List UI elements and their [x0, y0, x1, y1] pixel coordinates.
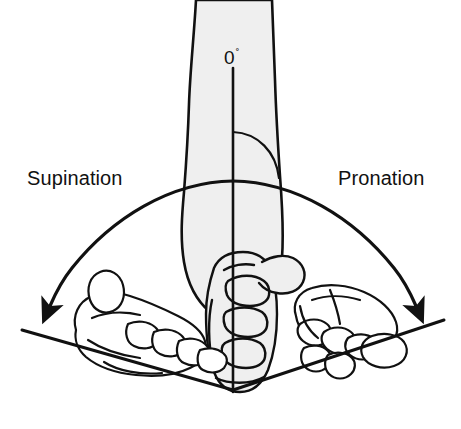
- degree-symbol: ˚: [236, 47, 240, 59]
- neutral-angle-value: 0: [224, 47, 235, 68]
- supination-label: Supination: [27, 167, 123, 190]
- supinated-hand-finger-4: [198, 348, 227, 372]
- neutral-angle-label: 0˚: [224, 47, 239, 69]
- forearm-rotation-figure: Supination Pronation 0˚: [0, 0, 461, 429]
- supinated-hand-thumb: [88, 271, 124, 313]
- pronation-label: Pronation: [338, 167, 425, 190]
- neutral-hand-thumb: [259, 256, 305, 294]
